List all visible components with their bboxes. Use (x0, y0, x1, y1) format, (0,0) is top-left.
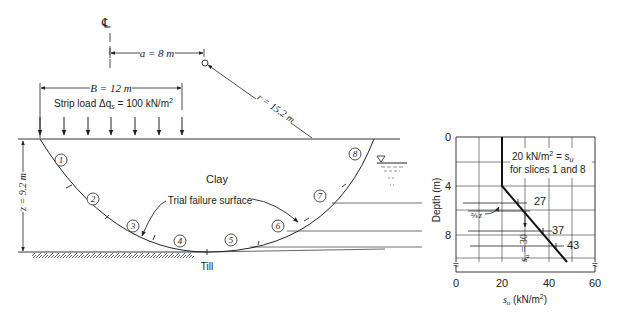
till-hatch (32, 253, 194, 258)
axis-break-left: ≈ (453, 259, 459, 270)
svg-text:4: 4 (445, 180, 451, 192)
axis-break-right: ≈ (592, 259, 598, 270)
slice-5: 5 (225, 234, 237, 246)
dim-a-label: a = 8 m (140, 47, 175, 59)
radius-label: r = 15.2 m (255, 91, 296, 125)
svg-text:3: 3 (130, 221, 136, 231)
y-tick-labels: 0 4 8 (445, 131, 451, 241)
clay-label: Clay (206, 173, 229, 185)
load-arrows (40, 117, 182, 135)
strip-load-label: Strip load Δqs = 100 kN/m2 (54, 97, 173, 110)
depth-z-label: z = 9.2 m (17, 173, 28, 212)
svg-text:5: 5 (229, 235, 234, 245)
svg-text:20: 20 (496, 277, 508, 289)
slice-8: 8 (349, 148, 361, 160)
annotation-line1: 20 kN/m2 = su (512, 150, 574, 163)
svg-text:8: 8 (445, 229, 451, 241)
cross-section: ℄ a = 8 m r = 15.2 m B = 12 m Strip (17, 15, 422, 272)
failure-surface-label: Trial failure surface (168, 195, 253, 206)
x-axis-label: su (kN/m2) (503, 293, 547, 307)
centerline: ℄ (101, 15, 111, 72)
strength-profile-chart: ≈ ≈ su = 30 ⅔z 27 37 43 20 kN/m2 = su (431, 131, 601, 307)
svg-text:4: 4 (178, 236, 183, 246)
slice-1: 1 (55, 154, 67, 166)
svg-text:6: 6 (276, 221, 281, 231)
svg-text:0: 0 (453, 277, 459, 289)
failure-arrow-right (252, 199, 298, 222)
svg-text:40: 40 (543, 277, 555, 289)
svg-text:2: 2 (91, 194, 96, 204)
slice-2: 2 (87, 193, 99, 205)
annotation-line2: for slices 1 and 8 (510, 164, 586, 175)
svg-text:60: 60 (589, 277, 601, 289)
dimension-a: a = 8 m (110, 47, 204, 59)
value-27: 27 (534, 195, 546, 207)
slice-3: 3 (127, 220, 139, 232)
slice-6: 6 (272, 220, 284, 232)
dimension-z: z = 9.2 m (17, 141, 28, 251)
dim-B-label: B = 12 m (90, 82, 131, 94)
value-37: 37 (552, 224, 564, 236)
water-table (377, 156, 407, 185)
svg-text:1: 1 (59, 155, 64, 165)
svg-text:8: 8 (353, 149, 358, 159)
failure-arrow-left (142, 201, 166, 236)
y-axis-label: Depth (m) (431, 178, 442, 222)
svg-text:0: 0 (445, 131, 451, 143)
two-thirds-z-label: ⅔z (471, 211, 483, 220)
slice-7: 7 (314, 190, 326, 202)
centerline-symbol: ℄ (101, 15, 111, 30)
slice-4: 4 (174, 235, 186, 247)
circle-center: r = 15.2 m (202, 60, 312, 138)
svg-text:7: 7 (318, 191, 323, 201)
slope-stability-figure: ℄ a = 8 m r = 15.2 m B = 12 m Strip (0, 0, 617, 317)
x-tick-labels: 0 20 40 60 (453, 277, 601, 289)
till-label: Till (201, 261, 213, 272)
value-43: 43 (567, 239, 579, 251)
